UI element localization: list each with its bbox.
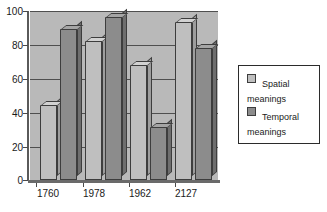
bar-spatial-1978[interactable] [85, 41, 102, 180]
legend-label-spatial-line2: meanings [247, 92, 319, 107]
x-tick-label-1962: 1962 [120, 188, 160, 200]
spatial-swatch-icon [247, 74, 256, 83]
legend-label-spatial-line1: Spatial [262, 79, 290, 89]
legend: Spatial meanings Temporal meanings [238, 65, 320, 144]
temporal-swatch-icon [247, 107, 256, 116]
legend-label-temporal-line2: meanings [247, 125, 319, 140]
bar-spatial-1962[interactable] [130, 65, 147, 180]
y-tick-mark-40 [23, 113, 28, 114]
legend-label-temporal-line1: Temporal [262, 112, 299, 122]
y-tick-label-20: 20 [12, 143, 23, 153]
bar-face [85, 41, 102, 180]
bar-face [40, 105, 57, 180]
bar-temporal-1760[interactable] [60, 29, 77, 180]
bar-face [130, 65, 147, 180]
bar-face [195, 48, 212, 180]
y-tick-mark-20 [23, 147, 28, 148]
bar-temporal-1962[interactable] [150, 127, 167, 180]
bar-side [212, 40, 217, 176]
x-tick-mark-2127 [175, 183, 176, 187]
bar-chart: 100 80 60 40 20 0 [0, 0, 327, 212]
y-tick-mark-100 [23, 11, 28, 12]
x-tick-mark-1760 [36, 183, 37, 187]
x-tick-label-1760: 1760 [28, 188, 68, 200]
bar-face [150, 127, 167, 180]
legend-label-temporal: Temporal meanings [247, 112, 319, 140]
bar-temporal-1978[interactable] [105, 17, 122, 180]
y-tick-label-100: 100 [6, 7, 23, 17]
x-axis: 1760 1978 1962 2127 [0, 188, 230, 206]
legend-entry-temporal[interactable]: Temporal meanings [239, 106, 319, 139]
bar-temporal-2127[interactable] [195, 48, 212, 180]
bar-face [60, 29, 77, 180]
y-tick-label-80: 80 [12, 41, 23, 51]
bar-spatial-2127[interactable] [175, 22, 192, 180]
y-tick-label-0: 0 [17, 176, 23, 186]
y-tick-mark-60 [23, 79, 28, 80]
bar-face [175, 22, 192, 180]
legend-entry-spatial[interactable]: Spatial meanings [239, 73, 319, 106]
x-tick-label-2127: 2127 [166, 188, 206, 200]
bar-side [122, 9, 127, 176]
y-tick-label-40: 40 [12, 109, 23, 119]
x-axis-line [28, 180, 220, 183]
bar-face [105, 17, 122, 180]
bar-side [77, 21, 82, 176]
legend-label-spatial: Spatial meanings [247, 79, 319, 107]
y-tick-label-60: 60 [12, 75, 23, 85]
x-tick-label-1978: 1978 [74, 188, 114, 200]
x-tick-mark-1978 [83, 183, 84, 187]
y-tick-mark-80 [23, 45, 28, 46]
x-tick-mark-1962 [129, 183, 130, 187]
bars-layer [30, 11, 225, 185]
y-axis-line [27, 11, 29, 181]
bar-spatial-1760[interactable] [40, 105, 57, 180]
